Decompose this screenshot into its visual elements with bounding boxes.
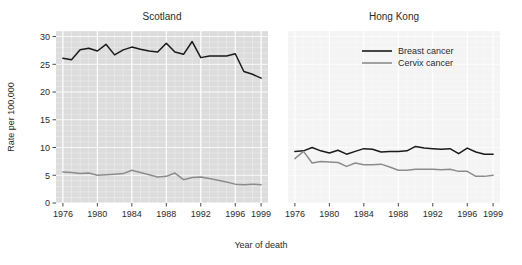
x-tick-label: 1999 xyxy=(483,209,503,219)
y-tick-label: 10 xyxy=(40,143,50,153)
chart-canvas: 1976198019841988199219961999051015202530… xyxy=(0,0,522,265)
x-tick-label: 1999 xyxy=(251,209,271,219)
panel-title-scotland: Scotland xyxy=(143,11,182,22)
x-tick-label: 1996 xyxy=(457,209,477,219)
y-tick-label: 15 xyxy=(40,115,50,125)
x-tick-label: 1984 xyxy=(122,209,142,219)
y-tick-label: 5 xyxy=(45,171,50,181)
x-tick-label: 1976 xyxy=(285,209,305,219)
y-tick-label: 20 xyxy=(40,87,50,97)
x-tick-label: 1980 xyxy=(87,209,107,219)
x-axis-title: Year of death xyxy=(234,240,287,250)
panel-title-hong-kong: Hong Kong xyxy=(369,11,419,22)
y-tick-label: 30 xyxy=(40,32,50,42)
figure-container: 1976198019841988199219961999051015202530… xyxy=(0,0,522,265)
x-tick-label: 1976 xyxy=(53,209,73,219)
x-tick-label: 1996 xyxy=(225,209,245,219)
legend-label-1[interactable]: Cervix cancer xyxy=(398,58,453,68)
x-tick-label: 1988 xyxy=(156,209,176,219)
x-tick-label: 1992 xyxy=(423,209,443,219)
panel-background-hong-kong xyxy=(288,31,500,203)
y-axis-title: Rate per 100,000 xyxy=(6,82,16,152)
y-tick-label: 0 xyxy=(45,198,50,208)
legend-label-0[interactable]: Breast cancer xyxy=(398,46,454,56)
x-tick-label: 1980 xyxy=(319,209,339,219)
x-tick-label: 1988 xyxy=(388,209,408,219)
x-tick-label: 1984 xyxy=(354,209,374,219)
x-tick-label: 1992 xyxy=(191,209,211,219)
y-tick-label: 25 xyxy=(40,60,50,70)
